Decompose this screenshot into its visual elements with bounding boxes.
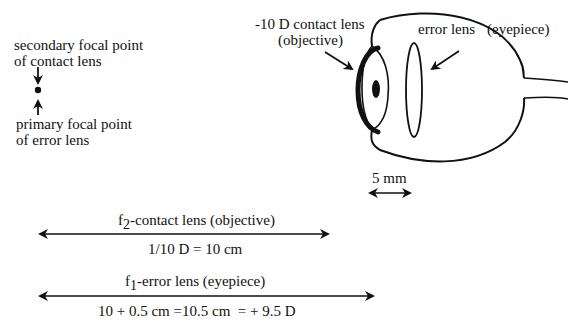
f1-label: f1-error lens (eyepiece) (125, 273, 265, 294)
f2-label: f2-contact lens (objective) (118, 212, 275, 233)
contact-lens-label-line1: -10 D contact lens (255, 16, 365, 33)
pupil (372, 80, 380, 98)
f1-label-text: -error lens (eyepiece) (137, 273, 265, 289)
error-lens-pointer-arrow (432, 51, 459, 69)
contact-lens-pointer-arrow (325, 52, 352, 69)
focal-point-marker (35, 67, 41, 115)
error-lens (406, 43, 422, 137)
contact-lens-label-line2: (objective) (278, 32, 343, 49)
f1-subscript: 1 (130, 278, 137, 293)
f2-subscript: 2 (123, 217, 130, 232)
eyepiece-label: (eyepiece) (487, 21, 549, 38)
scale-label: 5 mm (372, 170, 407, 187)
f1-value: 10 + 0.5 cm =10.5 cm = + 9.5 D (98, 303, 296, 320)
secondary-focal-label-line2: of contact lens (14, 53, 101, 70)
f2-label-text: -contact lens (objective) (130, 212, 275, 228)
error-lens-label: error lens (418, 21, 475, 38)
secondary-focal-label-line1: secondary focal point (14, 37, 143, 54)
primary-focal-label-line2: of error lens (16, 132, 89, 149)
f2-value: 1/10 D = 10 cm (148, 241, 242, 258)
primary-focal-label-line1: primary focal point (16, 116, 132, 133)
